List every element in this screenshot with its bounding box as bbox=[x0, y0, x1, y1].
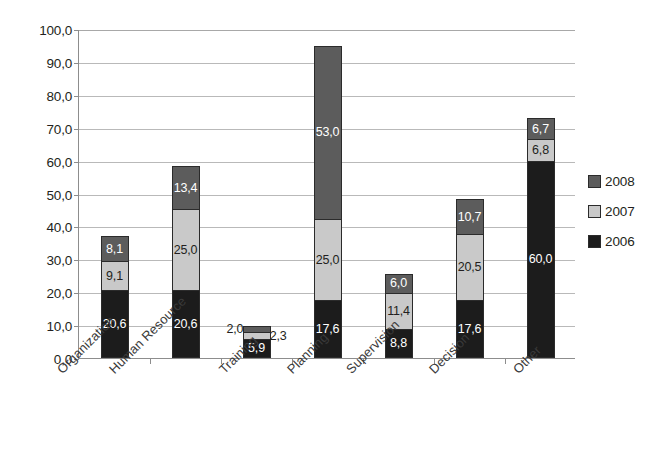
bar-value-label: 25,0 bbox=[174, 244, 198, 257]
y-axis-tick-mark bbox=[74, 195, 79, 196]
bar-segment[interactable]: 60,0 bbox=[527, 161, 555, 358]
stacked-bar-chart: 0,010,020,030,040,050,060,070,080,090,01… bbox=[0, 0, 659, 472]
bar-segment[interactable]: 13,4 bbox=[172, 166, 200, 210]
legend-color-swatch bbox=[588, 175, 601, 188]
bar-segment[interactable]: 25,0 bbox=[314, 219, 342, 301]
bar-value-label: 60,0 bbox=[529, 253, 553, 266]
bar-value-label: 6,8 bbox=[532, 144, 549, 157]
y-axis-tick-label: 50,0 bbox=[2, 187, 72, 202]
bar-value-label: 2,0 bbox=[226, 323, 243, 336]
bar-value-label: 10,7 bbox=[458, 211, 482, 224]
y-axis-tick-label: 90,0 bbox=[2, 55, 72, 70]
bar-value-label: 8,8 bbox=[390, 337, 407, 350]
y-axis-tick-mark bbox=[74, 96, 79, 97]
chart-legend: 200820072006 bbox=[588, 166, 658, 256]
y-axis-tick-label: 10,0 bbox=[2, 319, 72, 334]
bar-value-label: 2,3 bbox=[270, 330, 287, 343]
legend-item[interactable]: 2006 bbox=[588, 226, 658, 256]
y-axis-tick-label: 30,0 bbox=[2, 253, 72, 268]
y-axis-tick-mark bbox=[74, 293, 79, 294]
bar-value-label: 6,7 bbox=[532, 123, 549, 136]
bar-value-label: 9,1 bbox=[106, 270, 123, 283]
legend-color-swatch bbox=[588, 205, 601, 218]
y-axis-tick-label: 80,0 bbox=[2, 88, 72, 103]
bar-stack[interactable]: 60,06,86,7 bbox=[527, 119, 555, 358]
y-axis-tick-mark bbox=[74, 162, 79, 163]
y-axis-tick-label: 60,0 bbox=[2, 154, 72, 169]
legend-label: 2006 bbox=[605, 234, 635, 249]
y-axis-tick-label: 100,0 bbox=[2, 23, 72, 38]
bar-segment[interactable]: 53,0 bbox=[314, 46, 342, 220]
legend-item[interactable]: 2007 bbox=[588, 196, 658, 226]
bar-segment[interactable]: 8,1 bbox=[101, 236, 129, 263]
bar-stack[interactable]: 8,811,46,0 bbox=[385, 275, 413, 358]
legend-label: 2007 bbox=[605, 204, 635, 219]
y-axis-tick-label: 40,0 bbox=[2, 220, 72, 235]
y-axis-tick-mark bbox=[74, 129, 79, 130]
legend-item[interactable]: 2008 bbox=[588, 166, 658, 196]
gridline bbox=[79, 30, 575, 31]
bar-segment[interactable]: 10,7 bbox=[456, 199, 484, 234]
bar-value-label: 20,5 bbox=[458, 261, 482, 274]
bar-segment[interactable]: 6,7 bbox=[527, 118, 555, 140]
bar-segment[interactable]: 25,0 bbox=[172, 209, 200, 291]
bar-segment[interactable]: 2,0 bbox=[243, 326, 271, 333]
plot-area: 20,69,18,120,625,013,45,92,32,017,625,05… bbox=[78, 30, 575, 359]
bar-segment[interactable]: 9,1 bbox=[101, 261, 129, 291]
x-axis-tick-mark bbox=[150, 358, 151, 364]
y-axis-tick-mark bbox=[74, 63, 79, 64]
bar-stack[interactable]: 17,625,053,0 bbox=[314, 47, 342, 359]
y-axis-tick-mark bbox=[74, 227, 79, 228]
bar-segment[interactable]: 6,8 bbox=[527, 139, 555, 161]
y-axis-tick-label: 70,0 bbox=[2, 121, 72, 136]
bar-segment[interactable]: 6,0 bbox=[385, 274, 413, 294]
bar-value-label: 11,4 bbox=[387, 305, 410, 318]
legend-label: 2008 bbox=[605, 174, 635, 189]
bar-value-label: 13,4 bbox=[174, 182, 198, 195]
y-axis-tick-label: 20,0 bbox=[2, 286, 72, 301]
y-axis-labels: 0,010,020,030,040,050,060,070,080,090,01… bbox=[0, 30, 72, 359]
y-axis-tick-mark bbox=[74, 260, 79, 261]
y-axis-tick-mark bbox=[74, 326, 79, 327]
legend-color-swatch bbox=[588, 235, 601, 248]
bar-stack[interactable]: 20,625,013,4 bbox=[172, 167, 200, 358]
bar-value-label: 6,0 bbox=[390, 277, 407, 290]
bar-value-label: 20,6 bbox=[174, 318, 198, 331]
bar-stack[interactable]: 20,69,18,1 bbox=[101, 237, 129, 358]
bar-value-label: 53,0 bbox=[316, 126, 340, 139]
x-axis-tick-mark bbox=[505, 358, 506, 364]
y-axis-tick-mark bbox=[74, 30, 79, 31]
bar-value-label: 25,0 bbox=[316, 254, 340, 267]
bar-value-label: 8,1 bbox=[106, 243, 123, 256]
bar-segment[interactable]: 20,5 bbox=[456, 234, 484, 301]
